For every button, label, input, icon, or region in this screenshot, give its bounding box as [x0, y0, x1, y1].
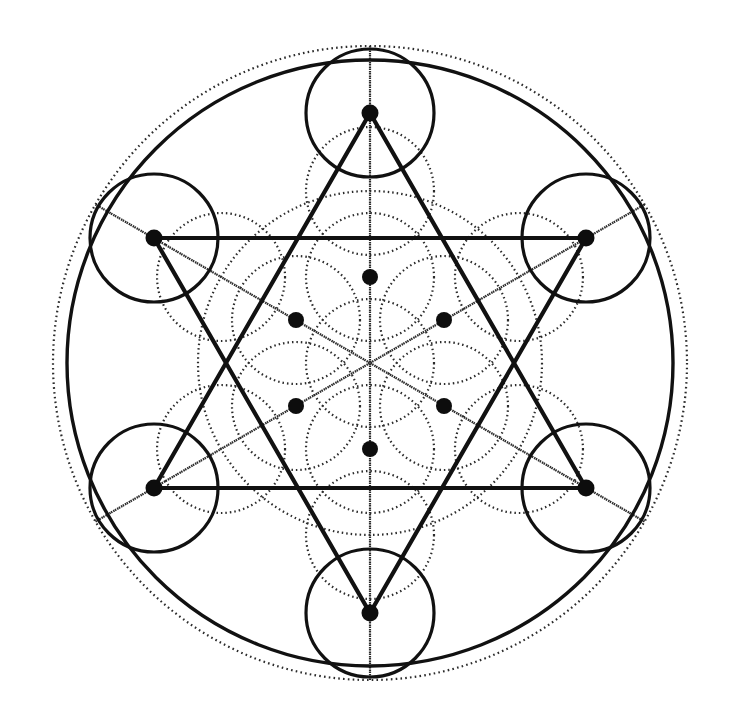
- vertex-dot-inner-vertex-upper-left: [288, 312, 304, 328]
- vertex-dot-inner-vertex-top: [362, 269, 378, 285]
- vertex-dot-inner-vertex-upper-right: [436, 312, 452, 328]
- geometry-figure: [0, 0, 738, 723]
- vertex-dot-inner-vertex-bottom: [362, 441, 378, 457]
- vertex-dot-vertex-bottom: [362, 605, 379, 622]
- vertex-dot-vertex-lower-left: [146, 480, 163, 497]
- vertex-dot-vertex-upper-left: [146, 230, 163, 247]
- vertex-dot-inner-vertex-lower-right: [436, 398, 452, 414]
- vertex-dot-inner-vertex-lower-left: [288, 398, 304, 414]
- vertex-dot-vertex-upper-right: [578, 230, 595, 247]
- vertex-dot-vertex-top: [362, 105, 379, 122]
- vertex-dot-vertex-lower-right: [578, 480, 595, 497]
- geometry-canvas: [0, 0, 738, 723]
